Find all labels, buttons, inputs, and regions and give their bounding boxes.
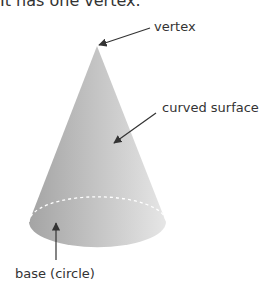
curved-surface-label: curved surface [162,100,259,115]
vertex-arrow [99,28,150,45]
vertex-label: vertex [154,19,196,34]
cone-body [29,46,166,247]
base-label: base (circle) [15,266,95,281]
cone-diagram: vertex curved surface base (circle) [0,0,262,293]
